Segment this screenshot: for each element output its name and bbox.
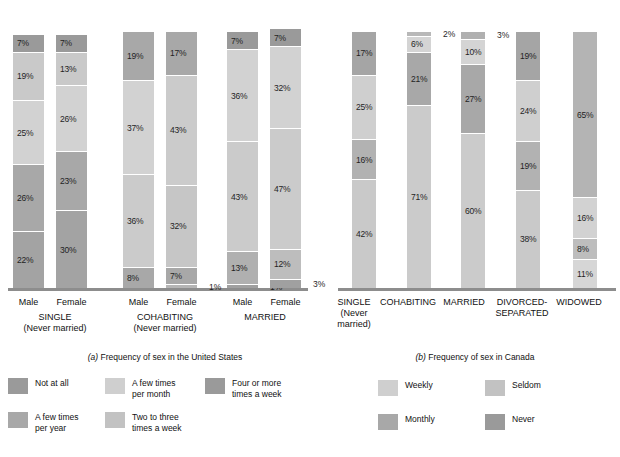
bar-segment: 43%	[166, 76, 197, 186]
legend-label: Not at all	[35, 378, 69, 389]
bar-label: Female	[270, 297, 301, 307]
bar-segment: 21%	[407, 53, 431, 107]
segment-value-label: 12%	[274, 259, 290, 269]
bar-segment: 25%	[352, 76, 376, 140]
bar-segment: 16%	[352, 140, 376, 181]
segment-value-label: 1%	[209, 282, 221, 292]
segment-value-label: 43%	[170, 125, 186, 135]
legend-canada: WeeklySeldomMonthlyNever	[330, 378, 620, 448]
chart-baseline	[338, 288, 616, 291]
bar-segment: 25%	[13, 101, 44, 165]
legend-swatch	[378, 414, 398, 430]
segment-value-label: 17%	[356, 48, 372, 58]
group-label: MARRIED	[433, 297, 495, 308]
legend-label: Seldom	[512, 380, 541, 391]
stacked-bar: 17%25%16%42%	[352, 32, 376, 288]
segment-value-label: 71%	[411, 192, 427, 202]
stacked-bar: 2%6%21%71%	[407, 32, 431, 288]
segment-value-label: 7%	[274, 33, 286, 43]
caption-text-b: Frequency of sex in Canada	[426, 352, 535, 362]
bar-segment: 36%	[123, 175, 154, 267]
segment-value-label: 2%	[443, 29, 455, 39]
legend-item[interactable]: A few times per year	[8, 412, 78, 433]
bar-segment: 17%	[352, 32, 376, 76]
legend-swatch	[105, 412, 125, 428]
bar-segment: 1%	[166, 285, 197, 288]
legend-item[interactable]: Monthly	[378, 414, 435, 430]
stacked-bar: 7%13%26%23%30%	[56, 35, 87, 288]
bar-segment: 23%	[56, 152, 87, 211]
bar-label: Female	[166, 297, 197, 307]
segment-value-label: 10%	[465, 47, 481, 57]
segment-value-label: 36%	[127, 216, 143, 226]
caption-prefix-b: (b)	[415, 352, 425, 362]
caption-prefix-a: (a)	[88, 352, 98, 362]
caption-text-a: Frequency of sex in the United States	[98, 352, 242, 362]
segment-value-label: 16%	[577, 213, 593, 223]
plot-area-united-states: 7%19%25%26%22%7%13%26%23%30%19%37%36%8%1…	[0, 0, 330, 290]
bar-segment: 3%	[461, 32, 485, 40]
bar-segment: 26%	[13, 165, 44, 232]
legend-item[interactable]: Not at all	[8, 378, 69, 394]
bar-segment: 36%	[227, 50, 258, 142]
segment-value-label: 19%	[520, 161, 536, 171]
bar-segment: 7%	[13, 35, 44, 53]
legend-item[interactable]: Seldom	[485, 380, 541, 396]
legend-item[interactable]: Four or more times a week	[205, 378, 282, 399]
segment-value-label: 8%	[577, 244, 589, 254]
group-label: COHABITING	[375, 297, 441, 308]
segment-value-label: 30%	[60, 245, 76, 255]
segment-value-label: 19%	[17, 71, 33, 81]
legend-united-states: Not at allA few times per yearA few time…	[0, 378, 330, 448]
bar-segment: 27%	[461, 65, 485, 134]
legend-swatch	[485, 380, 505, 396]
bar-segment: 38%	[516, 191, 540, 288]
bar-segment: 17%	[166, 32, 197, 76]
group-label: SINGLE(Nevermarried)	[327, 297, 381, 330]
segment-value-label: 38%	[520, 234, 536, 244]
bar-segment: 16%	[573, 198, 597, 239]
legend-label: Two to three times a week	[132, 412, 182, 433]
bar-segment: 19%	[13, 53, 44, 102]
segment-value-label: 6%	[411, 39, 423, 49]
legend-swatch	[485, 414, 505, 430]
segment-value-label: 26%	[60, 114, 76, 124]
plot-area-canada: 17%25%16%42%2%6%21%71%3%10%27%60%19%24%1…	[330, 0, 620, 290]
segment-value-label: 7%	[170, 271, 182, 281]
bar-segment: 30%	[56, 211, 87, 288]
segment-value-label: 42%	[356, 229, 372, 239]
bar-segment: 7%	[166, 268, 197, 286]
segment-value-label: 16%	[356, 155, 372, 165]
segment-value-label: 27%	[465, 94, 481, 104]
bar-label: Male	[227, 297, 258, 307]
bar-segment: 13%	[56, 53, 87, 86]
chart-panel-united-states: 7%19%25%26%22%7%13%26%23%30%19%37%36%8%1…	[0, 0, 330, 457]
legend-item[interactable]: Two to three times a week	[105, 412, 182, 433]
bar-segment: 7%	[56, 35, 87, 53]
segment-value-label: 25%	[17, 128, 33, 138]
legend-label: A few times per year	[35, 412, 78, 433]
stacked-bar: 7%19%25%26%22%	[13, 35, 44, 288]
legend-item[interactable]: Never	[485, 414, 535, 430]
bar-segment: 8%	[123, 268, 154, 288]
segment-value-label: 26%	[17, 193, 33, 203]
segment-value-label: 19%	[127, 51, 143, 61]
legend-label: Never	[512, 414, 535, 425]
segment-value-label: 19%	[520, 51, 536, 61]
bar-segment: 24%	[516, 81, 540, 142]
segment-value-label: 11%	[577, 269, 593, 279]
segment-value-label: 60%	[465, 206, 481, 216]
legend-item[interactable]: A few times per month	[105, 378, 175, 399]
segment-value-label: 7%	[17, 38, 29, 48]
bar-segment: 19%	[516, 142, 540, 191]
legend-label: Weekly	[405, 380, 433, 391]
segment-value-label: 43%	[231, 192, 247, 202]
bar-segment: 26%	[56, 86, 87, 153]
segment-value-label: 13%	[231, 263, 247, 273]
bar-segment: 19%	[123, 32, 154, 81]
stacked-bar: 3%10%27%60%	[461, 32, 485, 288]
segment-value-label: 23%	[60, 176, 76, 186]
bar-segment: 22%	[13, 232, 44, 288]
legend-item[interactable]: Weekly	[378, 380, 433, 396]
segment-value-label: 25%	[356, 102, 372, 112]
